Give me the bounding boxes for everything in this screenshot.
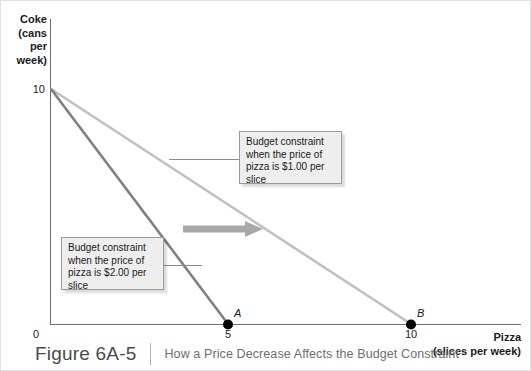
figure-caption: Figure 6A-5 How a Price Decrease Affects… [35,341,459,367]
callout-budget-constraint-1-00: Budget constraint when the price of pizz… [239,131,342,184]
caption-divider [150,343,151,365]
shift-arrow-icon [183,221,263,237]
point-label-a: A [234,307,241,319]
callout-budget-constraint-2-00: Budget constraint when the price of pizz… [61,237,164,290]
figure-number: Figure 6A-5 [35,343,136,365]
y-tick-label-10: 10 [19,83,45,95]
x-tick-label-10: 10 [401,328,421,340]
x-tick-label-origin: 0 [29,328,43,340]
figure-container: Coke (cans per week) Pizza (slices per w… [0,0,531,371]
point-label-b: B [417,307,424,319]
x-tick-label-5: 5 [221,328,235,340]
y-axis-title: Coke (cans per week) [1,13,47,67]
figure-title: How a Price Decrease Affects the Budget … [164,347,459,361]
budget-constraint-plot [1,1,531,371]
